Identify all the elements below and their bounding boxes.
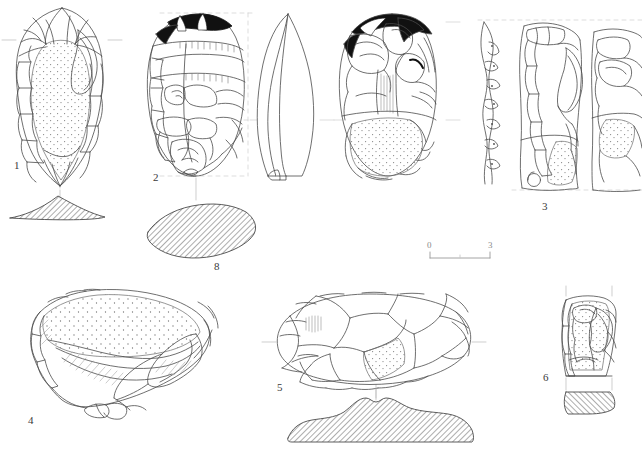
scale-bar-graphic [430, 252, 490, 258]
figure-2-handaxe-ventral [334, 14, 460, 180]
figure-1-handaxe [2, 8, 122, 220]
figure-label-6: 6 [543, 372, 549, 383]
figure-6-core-fragment [562, 286, 616, 414]
figure-label-5: 5 [277, 382, 283, 393]
figure-label-4: 4 [28, 415, 34, 426]
figure-3-core [478, 20, 642, 192]
figure-label-1: 1 [14, 160, 20, 171]
figure-6-axis-ticks [566, 286, 612, 296]
figure-3-edge-view [592, 29, 642, 192]
figure-6-cross-section [564, 378, 615, 414]
illustration-plate: 1 2 8 3 4 5 6 0 3 [0, 0, 642, 456]
figure-label-3: 3 [542, 201, 548, 212]
figure-label-2: 2 [153, 172, 159, 183]
figure-3-frontal-view [520, 23, 583, 190]
figure-2-handaxe-dorsal [147, 13, 252, 176]
figure-4-flake [31, 289, 218, 419]
figure-2-lateral-profile [250, 14, 334, 180]
plate-canvas [0, 0, 642, 456]
figure-3-profile-view [481, 22, 500, 184]
figure-8-cross-section [147, 178, 255, 258]
figure-1-cross-section [10, 190, 105, 220]
figure-label-8: 8 [214, 261, 220, 272]
scale-bar-end-label: 3 [488, 241, 493, 250]
figure-5-cross-section [288, 388, 474, 442]
scale-bar-start-label: 0 [427, 241, 432, 250]
figure-5-biface [262, 292, 486, 442]
